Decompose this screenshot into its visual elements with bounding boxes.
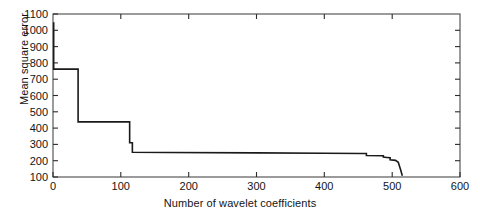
x-axis-title: Number of wavelet coefficients — [0, 197, 480, 209]
x-tick-label: 0 — [50, 180, 56, 192]
y-tick-label: 200 — [8, 155, 48, 167]
x-tick-label: 200 — [180, 180, 198, 192]
y-axis-title: Mean square error — [18, 13, 30, 105]
y-tick-label: 300 — [8, 138, 48, 150]
x-tick-label: 500 — [383, 180, 401, 192]
y-tick-label: 100 — [8, 171, 48, 183]
x-tick-label: 300 — [247, 180, 265, 192]
x-tick-label: 100 — [112, 180, 130, 192]
mse-vs-wavelet-coefficients-chart: 1100 1000 900 800 700 600 500 400 300 20… — [0, 0, 480, 219]
chart-canvas — [0, 0, 480, 219]
x-tick-label: 400 — [315, 180, 333, 192]
x-tick-label: 600 — [451, 180, 469, 192]
